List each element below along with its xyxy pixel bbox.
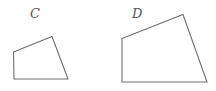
shape-d-group: D — [122, 6, 207, 82]
shape-c-quadrilateral — [14, 37, 69, 80]
shape-d-label: D — [131, 6, 143, 21]
shape-d-quadrilateral — [122, 15, 207, 83]
shape-c-group: C — [14, 6, 69, 79]
quadrilateral-diagram: C D — [0, 0, 216, 91]
shape-c-label: C — [30, 6, 40, 21]
